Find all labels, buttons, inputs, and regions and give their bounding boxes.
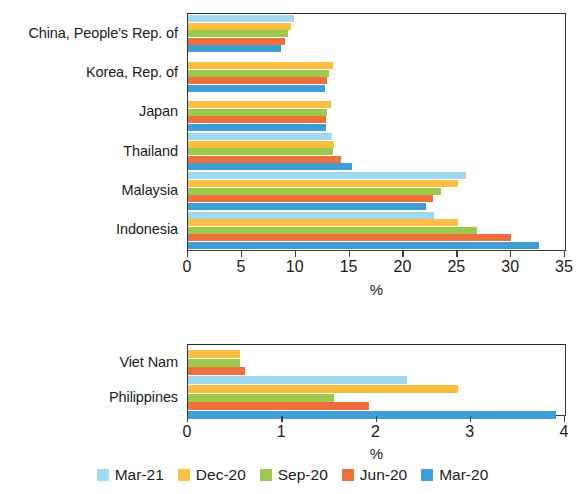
bar — [188, 227, 477, 234]
bar — [188, 219, 458, 226]
category-axis-labels-bottom: Viet NamPhilippines — [0, 330, 182, 450]
bar — [188, 203, 426, 210]
legend-swatch-icon — [178, 469, 190, 481]
axis-tick — [564, 416, 565, 422]
legend-swatch-icon — [421, 469, 433, 481]
legend-label: Mar-21 — [115, 466, 164, 484]
bar — [188, 195, 433, 202]
bar — [188, 15, 294, 22]
axis-tick — [241, 251, 242, 257]
category-label: Philippines — [109, 389, 178, 405]
bar — [188, 23, 291, 30]
category-label: Viet Nam — [119, 354, 178, 370]
axis-title-top: % — [370, 281, 383, 298]
legend-label: Sep-20 — [278, 466, 328, 484]
bar — [188, 385, 458, 393]
axis-tick — [376, 416, 377, 422]
bar — [188, 133, 332, 140]
bar — [188, 148, 333, 155]
bar — [188, 367, 245, 375]
bar — [188, 350, 240, 358]
value-axis-bottom: % 01234 — [187, 416, 566, 456]
bar — [188, 156, 341, 163]
axis-tick-label: 4 — [560, 423, 569, 441]
legend-swatch-icon — [342, 469, 354, 481]
legend-item: Dec-20 — [178, 466, 246, 484]
bar — [188, 242, 539, 249]
bar — [188, 109, 327, 116]
figure: China, People's Rep. ofKorea, Rep. ofJap… — [0, 0, 585, 494]
axis-tick — [470, 416, 471, 422]
legend-item: Jun-20 — [342, 466, 407, 484]
category-label: Korea, Rep. of — [86, 64, 178, 80]
legend-label: Dec-20 — [196, 466, 246, 484]
axis-tick — [402, 251, 403, 257]
chart-panel-bottom: Viet NamPhilippines % 01234 — [0, 330, 585, 450]
bar — [188, 376, 407, 384]
legend-swatch-icon — [97, 469, 109, 481]
bar — [188, 141, 334, 148]
axis-tick-label: 20 — [394, 258, 412, 276]
axis-tick — [187, 251, 188, 257]
axis-tick — [456, 251, 457, 257]
axis-tick — [349, 251, 350, 257]
axis-tick-label: 5 — [236, 258, 245, 276]
bar — [188, 359, 240, 367]
axis-tick-label: 10 — [286, 258, 304, 276]
value-axis-top: % 05101520253035 — [187, 251, 566, 291]
axis-tick-label: 30 — [501, 258, 519, 276]
category-label: Indonesia — [116, 221, 178, 237]
category-label: China, People's Rep. of — [28, 25, 178, 41]
axis-tick-label: 1 — [277, 423, 286, 441]
axis-tick — [281, 416, 282, 422]
bar — [188, 188, 441, 195]
bar — [188, 234, 511, 241]
chart-legend: Mar-21Dec-20Sep-20Jun-20Mar-20 — [0, 466, 585, 484]
axis-tick-label: 0 — [183, 423, 192, 441]
category-axis-labels-top: China, People's Rep. ofKorea, Rep. ofJap… — [0, 4, 182, 304]
legend-item: Mar-21 — [97, 466, 164, 484]
axis-tick — [510, 251, 511, 257]
plot-area-bottom — [187, 344, 566, 416]
plot-area-top — [187, 13, 566, 251]
axis-tick-label: 2 — [371, 423, 380, 441]
bar — [188, 124, 326, 131]
legend-item: Mar-20 — [421, 466, 488, 484]
axis-tick-label: 3 — [465, 423, 474, 441]
legend-swatch-icon — [260, 469, 272, 481]
bar — [188, 70, 329, 77]
legend-label: Jun-20 — [360, 466, 407, 484]
bar — [188, 172, 466, 179]
axis-tick — [295, 251, 296, 257]
axis-tick-label: 25 — [447, 258, 465, 276]
axis-title-bottom: % — [370, 445, 383, 462]
legend-label: Mar-20 — [439, 466, 488, 484]
bar — [188, 38, 285, 45]
category-label: Thailand — [123, 143, 178, 159]
bar — [188, 180, 458, 187]
category-label: Japan — [139, 103, 178, 119]
bar — [188, 212, 434, 219]
axis-tick-label: 0 — [183, 258, 192, 276]
bar — [188, 85, 325, 92]
legend-item: Sep-20 — [260, 466, 328, 484]
bar — [188, 45, 281, 52]
bar — [188, 101, 331, 108]
bar — [188, 163, 352, 170]
axis-tick-label: 35 — [555, 258, 573, 276]
axis-tick — [564, 251, 565, 257]
bar — [188, 394, 334, 402]
bar — [188, 116, 326, 123]
axis-tick — [187, 416, 188, 422]
chart-panel-top: China, People's Rep. ofKorea, Rep. ofJap… — [0, 4, 585, 304]
category-label: Malaysia — [122, 182, 178, 198]
bar — [188, 62, 333, 69]
axis-tick-label: 15 — [340, 258, 358, 276]
bar — [188, 402, 369, 410]
bar — [188, 77, 327, 84]
bar — [188, 30, 288, 37]
